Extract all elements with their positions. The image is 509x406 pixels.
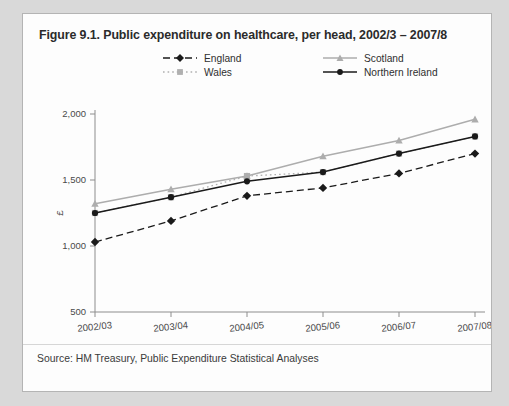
data-point-marker [319,184,327,192]
series-line [95,136,475,213]
y-tick-label: 2,000 [62,108,86,119]
data-point-marker [395,169,403,177]
legend-item-england: England [163,53,242,64]
data-point-marker [472,133,478,139]
data-point-marker [91,238,99,246]
legend-item-scotland: Scotland [323,53,404,64]
series-line [95,119,475,203]
line-chart: EnglandWalesScotlandNorthern Ireland 500… [23,42,491,342]
figure-title: Figure 9.1. Public expenditure on health… [39,28,469,42]
x-tick-label: 2006/07 [381,319,417,334]
chart-axis-labels: 5001,0001,5002,0002002/032003/042004/052… [54,108,491,342]
y-tick-label: 500 [70,306,86,317]
chart-series [91,116,479,247]
data-point-marker [337,69,343,75]
page-background: Figure 9.1. Public expenditure on health… [0,0,509,406]
x-tick-label: 2003/04 [153,319,189,334]
chart-legend: EnglandWalesScotlandNorthern Ireland [163,53,438,78]
source-note: Source: HM Treasury, Public Expenditure … [37,353,319,364]
y-tick-label: 1,000 [62,240,86,251]
data-point-marker [243,192,251,200]
series-northern-ireland [92,133,478,216]
x-tick-label: 2007/08 [457,319,491,334]
chart-canvas: EnglandWalesScotlandNorthern Ireland 500… [23,42,491,342]
data-point-marker [471,149,479,157]
series-england [91,149,479,246]
data-point-marker [471,116,478,123]
x-tick-label: 2002/03 [77,319,113,334]
data-point-marker [168,194,174,200]
data-point-marker [177,69,183,75]
data-point-marker [320,169,326,175]
data-point-marker [244,178,250,184]
legend-item-wales: Wales [163,67,232,78]
legend-label: Northern Ireland [364,67,438,78]
figure-card: Figure 9.1. Public expenditure on health… [22,13,492,392]
x-tick-label: 2005/06 [305,319,341,334]
series-scotland [91,116,478,207]
y-axis-title: £ [54,210,65,216]
x-tick-label: 2004/05 [229,319,265,334]
legend-label: England [204,53,242,64]
chart-axes [90,110,485,317]
data-point-marker [167,217,175,225]
series-wales [92,133,478,216]
data-point-marker [176,54,184,62]
source-divider [23,344,491,345]
legend-item-northern-ireland: Northern Ireland [323,67,438,78]
y-tick-label: 1,500 [62,174,86,185]
legend-label: Scotland [364,53,404,64]
data-point-marker [92,210,98,216]
data-point-marker [396,151,402,157]
legend-label: Wales [204,67,232,78]
